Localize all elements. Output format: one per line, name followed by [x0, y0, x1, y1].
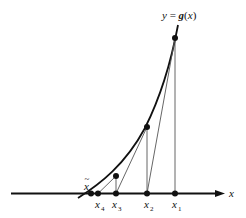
vertical-lines: [116, 38, 175, 194]
tangent-lines: [98, 38, 175, 194]
svg-text:3: 3: [118, 205, 122, 213]
label-x4: x 4: [94, 198, 105, 213]
newton-method-diagram: y = g(x) x x ~ x 4 x 3 x 2 x 1: [0, 0, 246, 218]
point-x2: [144, 191, 150, 197]
tangent-at-x3: [98, 176, 116, 194]
point-g-x2: [144, 124, 150, 130]
svg-text:x: x: [94, 198, 100, 210]
axis-arrowhead-icon: [215, 190, 225, 197]
curve-points: [113, 35, 178, 179]
root-label: x ~: [83, 174, 90, 192]
svg-text:2: 2: [150, 205, 154, 213]
point-x4: [95, 191, 101, 197]
label-x3: x 3: [111, 198, 122, 213]
point-x3: [113, 191, 119, 197]
svg-text:x: x: [171, 198, 177, 210]
curve-g: [78, 25, 178, 198]
tangent-at-x2: [116, 127, 147, 194]
svg-text:1: 1: [178, 205, 182, 213]
label-x1: x 1: [171, 198, 182, 213]
svg-text:4: 4: [101, 205, 105, 213]
axis-label: x: [228, 187, 234, 199]
svg-text:~: ~: [85, 174, 90, 184]
point-g-x1: [172, 35, 178, 41]
svg-text:x: x: [111, 198, 117, 210]
point-root: [88, 191, 94, 197]
point-x1: [172, 191, 178, 197]
point-g-x3: [113, 173, 119, 179]
curve-label: y = g(x): [161, 9, 197, 22]
svg-text:x: x: [143, 198, 149, 210]
label-x2: x 2: [143, 198, 154, 213]
